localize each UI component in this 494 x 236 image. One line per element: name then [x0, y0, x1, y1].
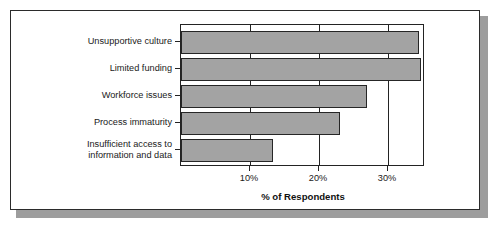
x-tick-10pct: [249, 166, 250, 171]
x-tick-label-20pct: 20%: [309, 173, 327, 183]
bar-process-immaturity: [181, 112, 340, 135]
category-label-1: Limited funding: [110, 63, 172, 74]
x-tick-30pct: [387, 166, 388, 171]
category-label-2: Workforce issues: [102, 90, 172, 101]
category-axis-labels: Unsupportive culture Limited funding Wor…: [36, 0, 172, 236]
chart-figure: Unsupportive culture Limited funding Wor…: [0, 0, 494, 236]
category-label-4: Insufficient access to information and d…: [87, 139, 172, 160]
bar-insufficient-access: [181, 139, 273, 162]
x-tick-label-10pct: 10%: [240, 173, 258, 183]
bar-workforce-issues: [181, 85, 367, 108]
plot-area: [180, 24, 424, 166]
x-tick-label-30pct: 30%: [378, 173, 396, 183]
bar-limited-funding: [181, 58, 421, 81]
category-label-3: Process immaturity: [94, 117, 172, 128]
x-tick-20pct: [318, 166, 319, 171]
category-label-0: Unsupportive culture: [88, 36, 172, 47]
bar-unsupportive-culture: [181, 31, 419, 54]
x-axis-title: % of Respondents: [261, 191, 345, 202]
